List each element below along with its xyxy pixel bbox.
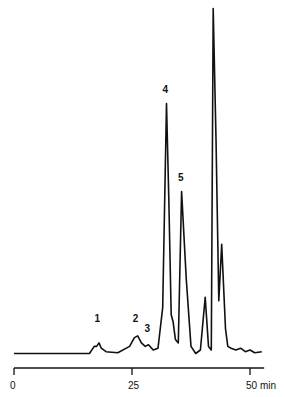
peak-label: 1: [95, 313, 101, 324]
peak-label: 3: [145, 323, 151, 334]
chromatogram-chart: 02550 min 12345: [0, 0, 285, 397]
x-tick-label: 25: [128, 380, 140, 391]
chromatogram-trace: [14, 9, 262, 354]
x-tick-label: 0: [10, 380, 16, 391]
peak-label: 4: [163, 84, 169, 95]
peak-label: 5: [178, 172, 184, 183]
peak-label: 2: [133, 313, 139, 324]
x-axis: 02550 min: [10, 368, 276, 391]
x-tick-label: 50 min: [246, 380, 276, 391]
